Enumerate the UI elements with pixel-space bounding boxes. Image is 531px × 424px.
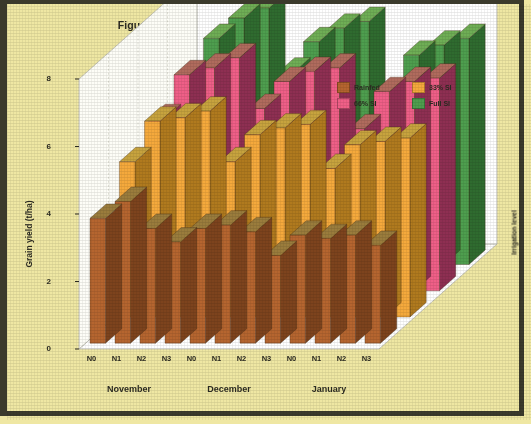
legend-item-66-si[interactable]: 66% SI	[337, 98, 412, 109]
chart-legend: Rainfed33% SI66% SIFull SI	[337, 82, 487, 114]
legend-label: 33% SI	[429, 84, 452, 91]
x-tick-N3-december: N3	[254, 354, 280, 363]
x-tick-N0-december: N0	[179, 354, 205, 363]
group-label-december: December	[184, 384, 274, 394]
legend-label: Rainfed	[354, 84, 380, 91]
legend-label: Full SI	[429, 100, 450, 107]
x-tick-N0-november: N0	[79, 354, 105, 363]
y-tick-0: 0	[29, 344, 51, 353]
legend-swatch-icon	[337, 82, 350, 93]
legend-item-33-si[interactable]: 33% SI	[412, 82, 487, 93]
legend-item-rainfed[interactable]: Rainfed	[337, 82, 412, 93]
x-tick-N0-january: N0	[279, 354, 305, 363]
bar-rainfed-N0-november	[90, 218, 106, 343]
x-tick-N3-november: N3	[154, 354, 180, 363]
legend-swatch-icon	[412, 82, 425, 93]
legend-label: 66% SI	[354, 100, 377, 107]
x-tick-N1-november: N1	[104, 354, 130, 363]
x-tick-N2-january: N2	[329, 354, 355, 363]
group-label-january: January	[284, 384, 374, 394]
x-tick-N2-december: N2	[229, 354, 255, 363]
x-tick-N2-november: N2	[129, 354, 155, 363]
y-tick-4: 4	[29, 209, 51, 218]
y-tick-8: 8	[29, 74, 51, 83]
x-tick-N1-january: N1	[304, 354, 330, 363]
legend-swatch-icon	[337, 98, 350, 109]
legend-item-full-si[interactable]: Full SI	[412, 98, 487, 109]
group-label-november: November	[84, 384, 174, 394]
legend-swatch-icon	[412, 98, 425, 109]
y-tick-6: 6	[29, 142, 51, 151]
x-tick-N1-december: N1	[204, 354, 230, 363]
depth-axis-title: Irrigation level	[511, 188, 518, 278]
x-tick-N3-january: N3	[354, 354, 380, 363]
y-tick-2: 2	[29, 277, 51, 286]
